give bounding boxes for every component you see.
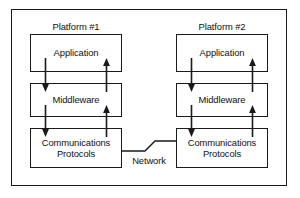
platform-1-application-label: Application xyxy=(54,47,99,59)
platform-1-arrow-communications-to-middleware xyxy=(101,105,112,137)
platform-1-communications-protocols-label: Communications Protocols xyxy=(42,137,110,160)
platform-label-2: Platform #2 xyxy=(176,21,268,32)
platform-label-1: Platform #1 xyxy=(30,21,122,32)
platform-2-communications-protocols-label: Communications Protocols xyxy=(188,137,256,160)
platform-1-arrow-application-to-middleware xyxy=(40,58,51,92)
platform-2-application-label: Application xyxy=(200,47,245,59)
platform-1-arrow-middleware-to-application xyxy=(101,58,112,92)
platform-2-arrow-middleware-to-communications xyxy=(186,105,197,137)
platform-2-middleware-label: Middleware xyxy=(199,94,246,106)
network-label: Network xyxy=(124,155,174,166)
middleware-architecture-diagram: Platform #1 Application Middleware Commu… xyxy=(0,0,300,198)
platform-1-middleware-label: Middleware xyxy=(53,94,100,106)
network-connector-line xyxy=(121,136,177,156)
platform-2-arrow-communications-to-middleware xyxy=(247,105,258,137)
platform-1-arrow-middleware-to-communications xyxy=(40,105,51,137)
platform-2-arrow-middleware-to-application xyxy=(247,58,258,92)
platform-2-arrow-application-to-middleware xyxy=(186,58,197,92)
